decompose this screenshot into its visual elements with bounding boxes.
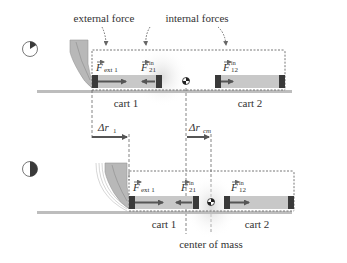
hand-icon <box>70 40 93 88</box>
clock-icon <box>23 162 38 177</box>
cart-2-label: cart 2 <box>245 218 270 230</box>
clock-icon <box>23 42 38 57</box>
force-21-symbol: F <box>180 181 188 193</box>
internal-force-pointer-2 <box>218 27 226 45</box>
cart-1-label: cart 1 <box>152 218 177 230</box>
force-12-sub: 12 <box>231 66 239 74</box>
cart-1 <box>92 75 162 88</box>
cart-1-label: cart 1 <box>114 97 139 109</box>
dr1-sub: 1 <box>113 127 117 135</box>
panel-before: F ext 1 F in 21 F in 12 cart 1 cart 2 <box>23 40 293 109</box>
external-force-pointer <box>102 27 106 45</box>
center-of-mass-label: center of mass <box>179 238 243 250</box>
force-21-symbol: F <box>140 61 148 73</box>
force-12-sub: 12 <box>239 186 247 194</box>
cart-2-label: cart 2 <box>238 97 263 109</box>
cart-1 <box>129 196 199 209</box>
cart-2 <box>215 75 285 88</box>
internal-force-pointer-1 <box>146 27 150 45</box>
center-of-mass-icon <box>183 78 190 85</box>
force-12-symbol: F <box>222 61 230 73</box>
force-ext1-sub: ext 1 <box>141 186 155 194</box>
panel-after: F ext 1 F in 21 F in 12 cart 1 cart 2 ce… <box>23 162 295 251</box>
force-12-symbol: F <box>230 181 238 193</box>
external-force-label: external force <box>74 12 135 24</box>
internal-forces-label: internal forces <box>165 12 228 24</box>
force-21-sub: 21 <box>189 186 197 194</box>
drcm-symbol: Δr <box>188 121 200 133</box>
drcm-sub: cm <box>203 127 211 135</box>
force-ext1-sub: ext 1 <box>104 66 118 74</box>
cart-2 <box>224 196 294 209</box>
dr1-symbol: Δr <box>97 121 109 133</box>
force-21-sub: 21 <box>149 66 157 74</box>
center-of-mass-icon <box>208 199 215 206</box>
hand-icon <box>96 163 130 211</box>
force-ext1-symbol: F <box>95 61 103 73</box>
diagram-canvas: external force internal forces <box>0 0 347 263</box>
force-ext1-symbol: F <box>132 181 140 193</box>
